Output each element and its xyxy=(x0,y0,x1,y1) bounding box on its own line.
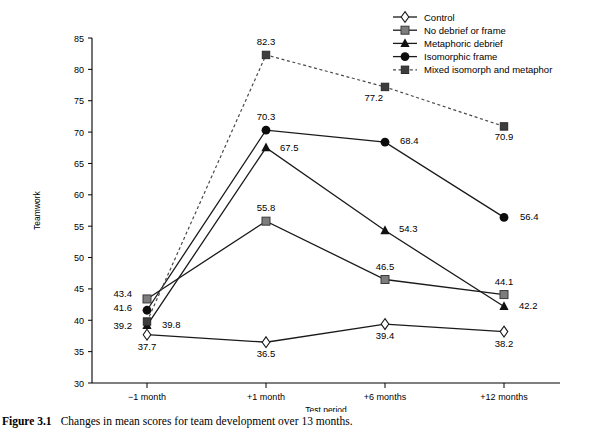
figure-caption: Figure 3.1Changes in mean scores for tea… xyxy=(2,415,590,427)
y-axis-tick-label: 85 xyxy=(74,34,84,44)
legend-item-label: Isomorphic frame xyxy=(424,51,497,62)
data-point-marker xyxy=(500,123,507,130)
y-axis-tick-label: 50 xyxy=(74,253,84,263)
data-point-label: 39.8 xyxy=(162,319,181,330)
figure-container: 303540455055606570758085−1 month+1 month… xyxy=(0,0,591,437)
series-line xyxy=(147,148,504,326)
data-point-label: 68.4 xyxy=(400,135,419,146)
y-axis-tick-label: 75 xyxy=(74,96,84,106)
x-axis-tick-label: −1 month xyxy=(128,392,166,402)
legend-marker-icon xyxy=(401,52,410,61)
data-point-label: 36.5 xyxy=(257,348,276,359)
y-axis-tick-label: 30 xyxy=(74,379,84,389)
data-point-marker xyxy=(143,329,151,340)
y-axis-tick-label: 80 xyxy=(74,65,84,75)
data-point-label: 67.5 xyxy=(280,142,299,153)
legend-item: No debrief or frame xyxy=(393,25,506,36)
data-point-label: 82.3 xyxy=(257,36,276,47)
data-point-label: 54.3 xyxy=(399,223,418,234)
legend-item: Isomorphic frame xyxy=(393,51,497,62)
data-point-marker xyxy=(143,295,151,303)
data-point-label: 39.4 xyxy=(376,330,395,341)
data-point-marker xyxy=(500,291,508,299)
data-point-marker xyxy=(262,217,270,225)
series-line xyxy=(147,130,504,310)
data-point-label: 56.4 xyxy=(520,211,539,222)
x-axis-tick-label: +6 months xyxy=(364,392,407,402)
y-axis-tick-label: 40 xyxy=(74,316,84,326)
legend-item: Metaphoric debrief xyxy=(393,38,503,49)
legend-item-label: No debrief or frame xyxy=(424,25,506,36)
data-point-marker xyxy=(261,143,270,152)
series-line xyxy=(147,324,504,342)
y-axis-tick-label: 65 xyxy=(74,159,84,169)
data-point-marker xyxy=(381,276,389,284)
data-point-label: 42.2 xyxy=(519,300,538,311)
series-layer xyxy=(142,51,508,347)
x-axis-tick-label: +1 month xyxy=(247,392,285,402)
line-chart: 303540455055606570758085−1 month+1 month… xyxy=(0,0,591,412)
y-axis-title: Teamwork xyxy=(32,190,42,229)
data-point-marker xyxy=(500,213,509,222)
legend-item-label: Metaphoric debrief xyxy=(424,38,503,49)
series-line xyxy=(147,55,504,322)
data-point-marker xyxy=(381,83,388,90)
series-line xyxy=(147,221,504,299)
y-axis-tick-label: 60 xyxy=(74,190,84,200)
data-point-label: 55.8 xyxy=(257,202,276,213)
data-point-label: 41.6 xyxy=(114,302,133,313)
legend-item-label: Mixed isomorph and metaphor xyxy=(424,64,552,75)
legend: ControlNo debrief or frameMetaphoric deb… xyxy=(393,12,552,76)
data-point-marker xyxy=(143,306,152,315)
y-axis-tick-label: 55 xyxy=(74,222,84,232)
figure-caption-text: Changes in mean scores for team developm… xyxy=(61,415,353,427)
y-axis-tick-label: 35 xyxy=(74,347,84,357)
legend-marker-icon xyxy=(401,66,408,73)
x-axis-title: Test period xyxy=(305,405,347,412)
data-point-label: 70.9 xyxy=(495,131,514,142)
data-point-label: 37.7 xyxy=(138,341,157,352)
data-point-marker xyxy=(380,225,389,234)
datalabels-layer: 37.736.539.438.243.455.846.544.139.267.5… xyxy=(114,36,539,359)
data-point-label: 77.2 xyxy=(365,92,384,103)
data-point-marker xyxy=(262,337,270,348)
axes-layer: 303540455055606570758085−1 month+1 month… xyxy=(32,34,560,413)
data-point-label: 44.1 xyxy=(495,276,514,287)
data-point-marker xyxy=(262,126,271,135)
data-point-marker xyxy=(499,301,508,310)
data-point-label: 38.2 xyxy=(495,338,514,349)
data-point-label: 70.3 xyxy=(257,111,276,122)
data-point-marker xyxy=(381,138,390,147)
data-point-marker xyxy=(262,51,269,58)
data-point-label: 39.2 xyxy=(114,320,133,331)
legend-item: Control xyxy=(393,12,455,23)
legend-marker-icon xyxy=(401,12,409,23)
data-point-label: 46.5 xyxy=(376,261,395,272)
data-point-marker xyxy=(381,319,389,330)
legend-marker-icon xyxy=(401,26,409,34)
legend-marker-icon xyxy=(400,38,409,47)
y-axis-tick-label: 45 xyxy=(74,284,84,294)
data-point-marker xyxy=(500,326,508,337)
data-point-marker xyxy=(143,318,150,325)
legend-item-label: Control xyxy=(424,12,455,23)
figure-caption-number: Figure 3.1 xyxy=(2,415,52,427)
y-axis-tick-label: 70 xyxy=(74,128,84,138)
data-point-label: 43.4 xyxy=(114,288,133,299)
x-axis-tick-label: +12 months xyxy=(480,392,528,402)
legend-item: Mixed isomorph and metaphor xyxy=(393,64,552,75)
